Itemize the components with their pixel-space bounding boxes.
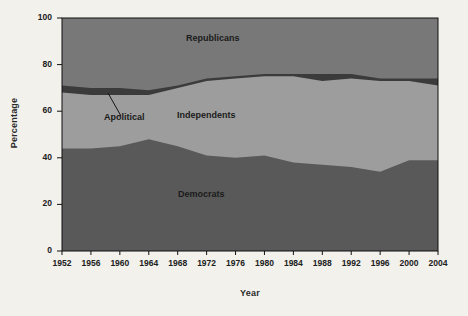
- y-axis-title: Percentage: [9, 88, 19, 158]
- x-tick-label: 1968: [163, 258, 193, 268]
- x-tick-label: 1956: [76, 258, 106, 268]
- x-tick-label: 1988: [307, 258, 337, 268]
- y-tick-label: 60: [26, 105, 52, 115]
- x-tick-label: 2000: [394, 258, 424, 268]
- x-tick-label: 1996: [365, 258, 395, 268]
- y-tick-label: 40: [26, 152, 52, 162]
- y-tick-label: 0: [26, 245, 52, 255]
- y-tick-marks: [57, 18, 62, 251]
- series-label-republicans: Republicans: [186, 33, 240, 43]
- x-tick-label: 1964: [134, 258, 164, 268]
- x-tick-label: 1952: [47, 258, 77, 268]
- x-tick-label: 1976: [221, 258, 251, 268]
- chart-figure: Percentage Year 020406080100 19521956196…: [0, 0, 468, 316]
- x-tick-label: 1960: [105, 258, 135, 268]
- series-label-democrats: Democrats: [178, 189, 225, 199]
- x-tick-label: 1984: [278, 258, 308, 268]
- y-tick-label: 100: [26, 12, 52, 22]
- x-tick-label: 2004: [423, 258, 453, 268]
- series-label-apolitical: Apolitical: [104, 112, 145, 122]
- x-axis-title: Year: [200, 288, 300, 298]
- y-tick-label: 80: [26, 59, 52, 69]
- x-tick-label: 1972: [192, 258, 222, 268]
- x-tick-label: 1992: [336, 258, 366, 268]
- x-tick-marks: [62, 251, 438, 255]
- x-tick-label: 1980: [249, 258, 279, 268]
- y-tick-label: 20: [26, 198, 52, 208]
- stacked-area-plot: [0, 0, 468, 316]
- series-label-independents: Independents: [177, 110, 236, 120]
